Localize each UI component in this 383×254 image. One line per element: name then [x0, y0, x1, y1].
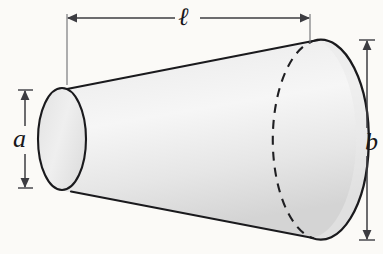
frustum-drawing [0, 0, 383, 254]
small-radius-label: a [13, 126, 26, 152]
frustum-solid [38, 40, 369, 240]
frustum-lateral-surface [46, 40, 369, 240]
large-radius-label: b [365, 129, 378, 155]
frustum-figure: the surface area of a frustum is given b… [0, 0, 383, 254]
length-label: ℓ [178, 4, 188, 29]
